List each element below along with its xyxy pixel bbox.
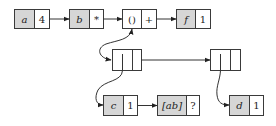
node-a-key: a (22, 14, 28, 25)
pair-right (211, 50, 241, 71)
node-ab-key: [ab] (162, 100, 182, 111)
node-paren-value: + (145, 14, 153, 25)
node-d-key: d (236, 100, 242, 111)
node-b-key: b (76, 14, 82, 25)
diagram-canvas: a 4 b * () + f 1 (0, 0, 276, 126)
node-f: f 1 (177, 10, 211, 29)
node-c-key: c (111, 100, 117, 111)
node-c: c 1 (104, 96, 138, 116)
node-paren-key: () (128, 14, 136, 25)
node-a: a 4 (15, 10, 50, 29)
node-d-value: 1 (253, 100, 259, 111)
pair-left (113, 50, 142, 71)
node-ab-value: ? (190, 100, 195, 111)
node-b-value: * (94, 14, 99, 25)
pair-left-cdr-cell (133, 50, 142, 71)
node-d: d 1 (230, 96, 264, 116)
node-paren: () + (123, 10, 157, 29)
edge-pair-right-to-d (217, 71, 229, 106)
node-b: b * (70, 10, 104, 29)
pair-right-cdr-cell (231, 50, 241, 71)
node-f-value: 1 (200, 14, 206, 25)
node-c-value: 1 (127, 100, 133, 111)
node-ab: [ab] ? (158, 96, 200, 116)
node-a-value: 4 (39, 14, 45, 25)
